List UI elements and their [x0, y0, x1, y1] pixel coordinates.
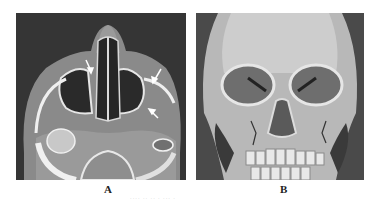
panel-label-a: A: [104, 183, 112, 195]
panel-label-b: B: [280, 183, 287, 195]
ct-3d-skull-image: [196, 13, 364, 180]
figure-caption-partial: ···· ·· ·· · ··· ·: [130, 196, 176, 201]
ct-3d-reconstruction-panel: [196, 13, 364, 180]
ct-axial-panel: [16, 13, 186, 180]
ct-axial-image: [16, 13, 186, 180]
